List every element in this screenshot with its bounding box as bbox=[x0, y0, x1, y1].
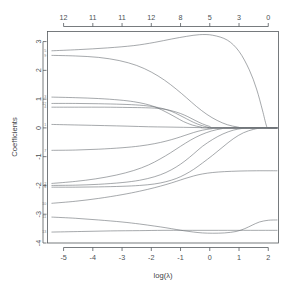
x-tick-label-5: 0 bbox=[208, 253, 212, 262]
coefficient-path-plot: 59312417286101113 -5-4-3-2-1012 3210-1-2… bbox=[0, 0, 297, 298]
x-tick-label-3: -2 bbox=[148, 253, 154, 262]
variable-label-var-9: 9 bbox=[44, 54, 46, 58]
variable-label-var-7: 7 bbox=[44, 149, 46, 153]
variable-label-var-1: 1 bbox=[44, 123, 46, 127]
top-tick-label-2: 11 bbox=[118, 13, 125, 22]
top-tick-label-6: 3 bbox=[237, 13, 241, 22]
y-tick-label-0: 3 bbox=[34, 40, 43, 44]
top-tick-label-4: 8 bbox=[179, 13, 183, 22]
y-axis-title: Coefficients bbox=[10, 117, 19, 157]
regularization-path-figure: 59312417286101113 -5-4-3-2-1012 3210-1-2… bbox=[0, 0, 297, 298]
top-tick-label-7: 0 bbox=[266, 13, 270, 22]
y-tick-label-2: 1 bbox=[34, 97, 43, 101]
variable-label-var-5: 5 bbox=[44, 49, 46, 53]
x-tick-label-4: -1 bbox=[177, 253, 183, 262]
y-tick-label-1: 2 bbox=[34, 68, 43, 72]
y-tick-label-3: 0 bbox=[34, 126, 43, 130]
top-tick-label-1: 11 bbox=[89, 13, 96, 22]
variable-label-var-4: 4 bbox=[44, 105, 46, 109]
y-tick-label-4: -1 bbox=[34, 153, 43, 159]
top-tick-label-5: 5 bbox=[208, 13, 212, 22]
y-tick-label-6: -3 bbox=[34, 211, 43, 217]
y-tick-label-7: -4 bbox=[34, 240, 43, 246]
top-tick-label-3: 12 bbox=[147, 13, 155, 22]
y-tick-label-5: -2 bbox=[34, 182, 43, 188]
x-tick-label-0: -5 bbox=[60, 253, 66, 262]
top-tick-label-0: 12 bbox=[60, 13, 68, 22]
variable-label-var-6: 6 bbox=[44, 185, 46, 189]
x-tick-label-6: 1 bbox=[237, 253, 241, 262]
x-tick-label-1: -4 bbox=[90, 253, 96, 262]
x-tick-label-7: 2 bbox=[266, 253, 270, 262]
x-tick-label-2: -3 bbox=[119, 253, 125, 262]
x-axis-title: log(λ) bbox=[154, 271, 173, 280]
